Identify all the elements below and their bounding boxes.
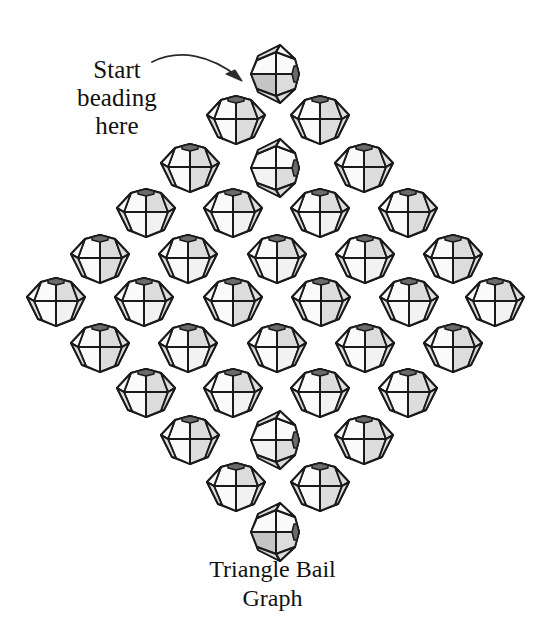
figure-caption: Triangle Bail Graph [0,555,545,613]
bead [114,366,178,420]
bead [376,366,440,420]
bead [158,413,222,467]
bead [332,413,396,467]
triangle-bail-graph-figure: Start beading here [0,0,545,618]
